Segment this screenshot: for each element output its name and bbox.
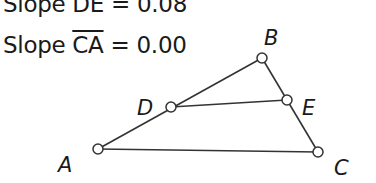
label-b: B <box>264 26 278 50</box>
segment-de[interactable] <box>171 100 287 107</box>
label-e: E <box>302 96 316 120</box>
label-a: A <box>56 153 72 177</box>
triangle-diagram: A B C D E <box>0 0 376 183</box>
point-b[interactable] <box>257 53 267 63</box>
label-c: C <box>334 156 349 180</box>
point-a[interactable] <box>93 144 103 154</box>
segment-ca[interactable] <box>98 149 318 152</box>
point-e[interactable] <box>282 95 292 105</box>
point-c[interactable] <box>313 147 323 157</box>
label-d: D <box>137 96 153 120</box>
point-d[interactable] <box>166 102 176 112</box>
